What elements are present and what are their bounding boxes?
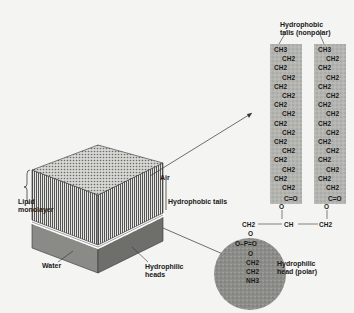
chain-unit: CH2 (326, 110, 339, 117)
chain-unit: CH2 (274, 138, 287, 145)
svg-text:NH3: NH3 (246, 277, 259, 284)
chain-unit: CH3 (274, 46, 287, 53)
chain-unit: CH2 (274, 83, 287, 90)
head-polar-label: Hydrophilic head (polar) (277, 260, 317, 276)
hydrophilic-heads-label: Hydrophilic heads (145, 263, 184, 279)
chain-unit: CH2 (318, 101, 331, 108)
chain-unit: CH2 (282, 92, 295, 99)
chain-unit: CH2 (318, 64, 331, 71)
chain-unit: CH2 (274, 120, 287, 127)
chain-unit: CH2 (274, 156, 287, 163)
chain-unit: CH2 (326, 74, 339, 81)
svg-text:CH: CH (284, 221, 294, 228)
svg-text:C=O: C=O (284, 195, 298, 202)
chain-unit: CH2 (282, 110, 295, 117)
air-label: Air (160, 174, 170, 182)
chain-unit: CH2 (282, 184, 295, 191)
tails-nonpolar-label: Hydrophobic tails (nonpolar) (280, 21, 331, 37)
chain-unit: CH2 (282, 74, 295, 81)
chain-unit: CH2 (282, 129, 295, 136)
phosphate-head-group: O O–P=O O CH2 CH2 NH3 (235, 230, 259, 284)
chain-unit: CH2 (326, 166, 339, 173)
glycerol-backbone: C=O C=O O O CH2 CH CH2 (242, 195, 342, 228)
chain-unit: CH2 (318, 156, 331, 163)
chain-unit: CH2 (318, 120, 331, 127)
chain-unit: CH3 (318, 46, 331, 53)
chain-unit: CH2 (326, 184, 339, 191)
water-label: Water (42, 262, 61, 270)
chain-unit: CH2 (274, 175, 287, 182)
chain-unit: CH2 (274, 101, 287, 108)
chain-unit: CH2 (282, 166, 295, 173)
svg-text:CH2: CH2 (319, 221, 332, 228)
svg-text:O: O (248, 230, 253, 237)
chain-unit: CH2 (326, 92, 339, 99)
chain-unit: CH2 (326, 147, 339, 154)
svg-text:O: O (324, 203, 329, 210)
chain-unit: CH2 (274, 64, 287, 71)
fatty-acid-chain-2: CH3CH2CH2CH2CH2CH2CH2CH2CH2CH2CH2CH2CH2C… (318, 46, 339, 191)
svg-text:C=O: C=O (328, 195, 342, 202)
chain-unit: CH2 (318, 175, 331, 182)
fatty-acid-chain-1: CH3CH2CH2CH2CH2CH2CH2CH2CH2CH2CH2CH2CH2C… (274, 46, 295, 191)
svg-text:O–P=O: O–P=O (235, 240, 257, 247)
svg-text:CH2: CH2 (246, 259, 259, 266)
svg-text:O: O (248, 250, 253, 257)
lipid-monolayer-label: Lipid monolayer (18, 198, 53, 214)
chain-unit: CH2 (282, 147, 295, 154)
chain-unit: CH2 (318, 138, 331, 145)
svg-text:CH2: CH2 (242, 221, 255, 228)
chain-unit: CH2 (318, 83, 331, 90)
svg-text:CH2: CH2 (246, 268, 259, 275)
chain-unit: CH2 (326, 55, 339, 62)
chain-unit: CH2 (326, 129, 339, 136)
chain-unit: CH2 (282, 55, 295, 62)
hydrophobic-tails-label: Hydrophobic tails (168, 198, 227, 206)
svg-text:O: O (279, 203, 284, 210)
